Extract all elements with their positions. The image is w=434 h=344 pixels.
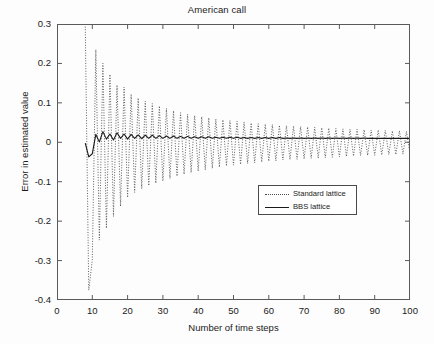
- x-tick-label: 70: [284, 305, 324, 316]
- chart-title: American call: [0, 4, 434, 15]
- legend-label-bbs-lattice: BBS lattice: [293, 202, 330, 211]
- x-tick-label: 40: [178, 305, 218, 316]
- legend-item-standard-lattice: Standard lattice: [259, 188, 358, 201]
- y-tick-label: 0.2: [11, 57, 51, 68]
- y-tick-label: -0.3: [11, 255, 51, 266]
- plot-frame-border: [57, 24, 410, 300]
- legend-sample-dotted: [265, 194, 289, 196]
- x-axis-label: Number of time steps: [57, 322, 410, 333]
- x-tick-label: 90: [355, 305, 395, 316]
- y-tick-label: -0.2: [11, 215, 51, 226]
- legend-item-bbs-lattice: BBS lattice: [259, 201, 358, 214]
- y-tick-label: 0.1: [11, 97, 51, 108]
- plot-area: [57, 24, 410, 300]
- x-tick-label: 100: [390, 305, 430, 316]
- x-tick-label: 10: [72, 305, 112, 316]
- y-tick-label: 0: [11, 136, 51, 147]
- x-tick-label: 0: [37, 305, 77, 316]
- legend: Standard lattice BBS lattice: [258, 185, 357, 215]
- x-tick-label: 30: [143, 305, 183, 316]
- legend-label-standard-lattice: Standard lattice: [293, 189, 346, 198]
- x-tick-label: 20: [108, 305, 148, 316]
- x-tick-label: 80: [319, 305, 359, 316]
- x-tick-label: 60: [249, 305, 289, 316]
- legend-sample-solid: [265, 207, 289, 209]
- y-tick-label: 0.3: [11, 18, 51, 29]
- y-tick-label: -0.1: [11, 176, 51, 187]
- chart-figure: American call Error in estimated value N…: [0, 0, 434, 344]
- y-tick-label: -0.4: [11, 294, 51, 305]
- x-tick-label: 50: [214, 305, 254, 316]
